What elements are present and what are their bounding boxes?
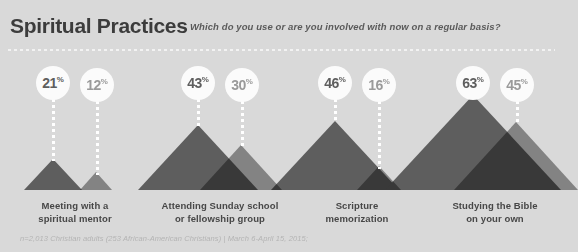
header-divider xyxy=(8,49,555,51)
category-label-line1: Studying the Bible xyxy=(420,200,570,213)
value-bubble: 16% xyxy=(362,68,396,102)
category-label-line1: Meeting with a xyxy=(0,200,150,213)
connector-dots xyxy=(334,99,337,123)
connector-dots xyxy=(378,101,381,169)
connector-dots xyxy=(516,101,519,125)
page-title: Spiritual Practices xyxy=(10,13,188,39)
mountain-light xyxy=(454,122,578,190)
value-bubble: 12% xyxy=(80,68,114,102)
chart-group: 63%45%Studying the Bibleon your own xyxy=(420,52,570,252)
percent-sign: % xyxy=(57,76,64,84)
category-label-line2: on your own xyxy=(420,213,570,226)
value-number: 12 xyxy=(86,78,101,92)
mountain-light xyxy=(357,166,401,190)
category-label: Studying the Bibleon your own xyxy=(420,200,570,225)
connector-dots xyxy=(241,101,244,147)
connector-dots xyxy=(96,101,99,175)
header: Spiritual Practices Which do you use or … xyxy=(0,0,563,45)
category-label: Scripturememorization xyxy=(282,200,432,225)
percent-sign: % xyxy=(246,78,253,86)
value-number: 43 xyxy=(187,76,202,90)
value-number: 30 xyxy=(231,78,246,92)
mountain-dark xyxy=(24,159,82,190)
chart-group: 21%12%Meeting with aspiritual mentor xyxy=(0,52,150,252)
chart-group: 43%30%Attending Sunday schoolor fellowsh… xyxy=(140,52,300,252)
category-label-line2: memorization xyxy=(282,213,432,226)
connector-dots xyxy=(52,99,55,161)
category-label-line2: or fellowship group xyxy=(140,213,300,226)
value-bubble: 21% xyxy=(36,66,70,100)
category-label: Meeting with aspiritual mentor xyxy=(0,200,150,225)
value-number: 21 xyxy=(42,76,57,90)
mountain-pair xyxy=(0,52,150,190)
category-label: Attending Sunday schoolor fellowship gro… xyxy=(140,200,300,225)
value-bubble: 30% xyxy=(225,68,259,102)
category-label-line2: spiritual mentor xyxy=(0,213,150,226)
value-bubble: 63% xyxy=(456,66,490,100)
percent-sign: % xyxy=(101,78,108,86)
category-label-line1: Scripture xyxy=(282,200,432,213)
page-subtitle: Which do you use or are you involved wit… xyxy=(190,21,501,32)
value-number: 45 xyxy=(506,78,521,92)
mountain-light xyxy=(200,145,282,190)
value-bubble: 43% xyxy=(181,66,215,100)
value-bubble: 45% xyxy=(500,68,534,102)
value-number: 46 xyxy=(324,76,339,90)
mountain-pair xyxy=(420,52,570,190)
source-note: n=2,013 Christian adults (253 African-Am… xyxy=(20,234,308,243)
connector-dots xyxy=(197,99,200,128)
percent-sign: % xyxy=(339,76,346,84)
value-bubble: 46% xyxy=(318,66,352,100)
percent-sign: % xyxy=(383,78,390,86)
value-number: 16 xyxy=(368,78,383,92)
percent-sign: % xyxy=(202,76,209,84)
percent-sign: % xyxy=(477,76,484,84)
category-label-line1: Attending Sunday school xyxy=(140,200,300,213)
percent-sign: % xyxy=(521,78,528,86)
value-number: 63 xyxy=(462,76,477,90)
mountain-chart: 21%12%Meeting with aspiritual mentor43%3… xyxy=(0,52,563,252)
